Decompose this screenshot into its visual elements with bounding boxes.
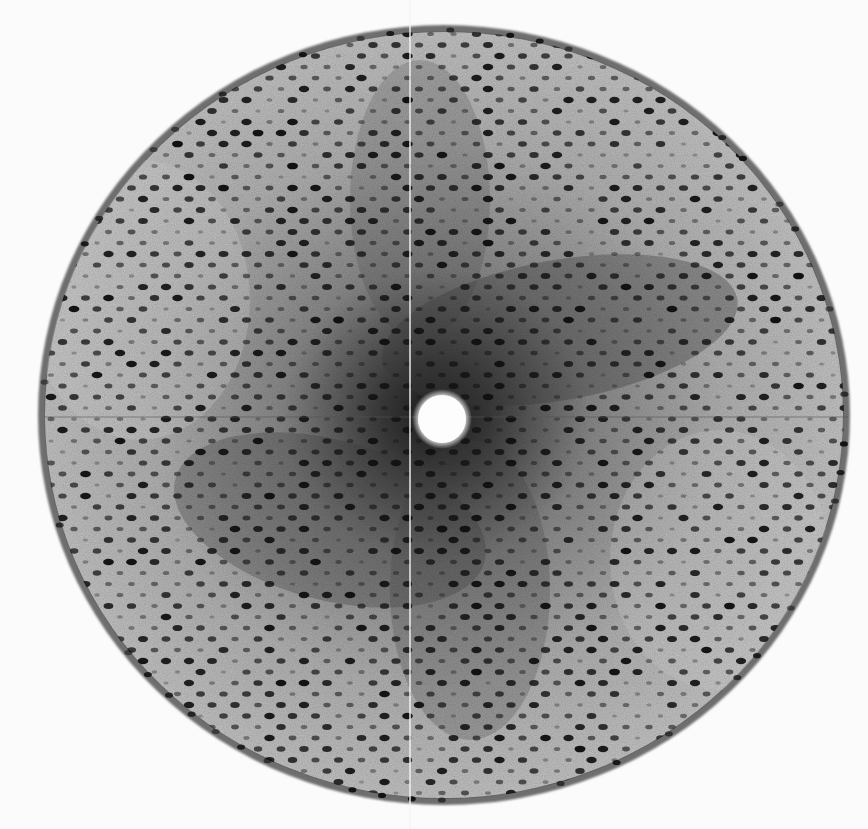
beamstop-core xyxy=(418,395,466,443)
diffraction-image xyxy=(0,0,868,829)
